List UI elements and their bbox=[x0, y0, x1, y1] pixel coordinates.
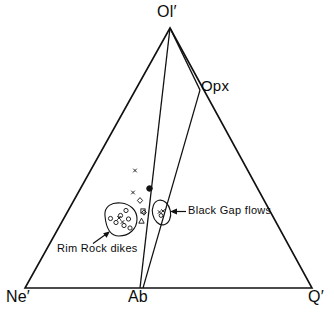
rim-rock-arrow-head bbox=[103, 231, 110, 238]
data-marker-filled-circle bbox=[147, 186, 153, 192]
data-marker-open-circle bbox=[114, 220, 118, 224]
tie-line-ol-opx bbox=[170, 28, 200, 90]
ternary-diagram-figure: Ol′ Ne′ Ab Q′ Opx Black Gap flows Rim Ro… bbox=[0, 0, 334, 315]
field-label-black-gap: Black Gap flows bbox=[188, 205, 271, 216]
data-marker-open-circle bbox=[108, 216, 112, 220]
vertex-label-ne: Ne′ bbox=[6, 289, 30, 305]
data-marker-open-triangle bbox=[139, 218, 144, 223]
data-marker-open-circle bbox=[124, 208, 128, 212]
tie-line-ol-ab bbox=[140, 28, 170, 288]
interior-label-opx: Opx bbox=[201, 78, 229, 93]
rim-rock-markers bbox=[108, 208, 132, 230]
data-marker-cross bbox=[161, 209, 164, 212]
vertex-label-q: Q′ bbox=[308, 289, 324, 305]
data-marker-cross bbox=[133, 169, 137, 173]
field-label-rim-rock: Rim Rock dikes bbox=[57, 243, 138, 254]
ternary-diagram-canvas bbox=[0, 0, 334, 315]
scatter-markers bbox=[131, 169, 152, 224]
data-marker-open-diamond bbox=[142, 210, 147, 215]
vertex-label-ol: Ol′ bbox=[157, 4, 177, 20]
data-marker-open-circle bbox=[126, 217, 130, 221]
vertex-label-ab: Ab bbox=[128, 289, 148, 305]
data-marker-open-circle bbox=[159, 214, 163, 218]
data-marker-cross bbox=[131, 191, 135, 195]
data-marker-cross bbox=[121, 220, 125, 224]
data-marker-open-circle bbox=[128, 226, 132, 230]
data-marker-open-diamond bbox=[137, 198, 142, 204]
